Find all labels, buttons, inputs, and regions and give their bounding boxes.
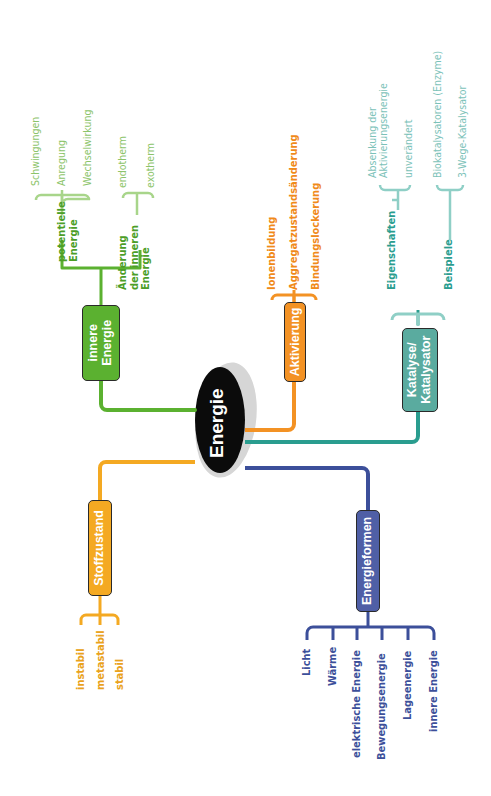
node-innere-energie-line2: Energie [100,320,114,366]
absenkung-line2: Aktivierungsenergie [377,83,389,178]
node-potentielle-energie: potentielleEnergie [56,201,79,262]
leaf-absenkung-aktivierungsenergie: Absenkung derAktivierungsenergie [367,83,389,178]
node-innere-energie[interactable]: innereEnergie [82,305,120,381]
node-katalyse-line1: Katalyse/ [405,343,419,398]
leaf-anregung: Anregung [56,140,67,186]
leaf-lageenergie: Lageenergie [402,651,414,720]
leaf-innere-energie: innere Energie [428,650,440,732]
leaf-ionenbildung: Ionenbildung [266,217,278,290]
node-energieformen-label: Energieformen [361,517,375,605]
leaf-wechselwirkung: Wechselwirkung [82,110,93,186]
leaf-bindungslockerung: Bindungslockerung [310,183,322,290]
mindmap-canvas: Energie innereEnergie potentielleEnergie… [0,0,491,796]
node-stoffzustand[interactable]: Stoffzustand [88,500,112,596]
node-aenderung-innere-energie: Änderungder innerenEnergie [117,225,152,290]
leaf-instabil: instabil [75,648,87,690]
node-katalyse[interactable]: Katalyse/Katalysator [402,328,438,412]
node-aktivierung[interactable]: Aktivierung [284,302,306,382]
node-energieformen[interactable]: Energieformen [356,510,380,612]
leaf-endotherm: endotherm [117,136,128,188]
leaf-exotherm: exotherm [145,143,156,188]
aenderung-line3: Energie [139,247,152,290]
leaf-3-wege-katalysator: 3-Wege-Katalysator [457,86,468,178]
leaf-elektrische-energie: elektrische Energie [351,650,363,758]
leaf-bewegungsenergie: Bewegungsenergie [376,653,388,760]
node-eigenschaften: Eigenschaften [386,211,398,290]
node-aktivierung-label: Aktivierung [288,308,302,377]
leaf-aggregatzustandsaenderung: Aggregatzustandsänderung [288,134,300,290]
leaf-biokatalysatoren: Biokatalysatoren (Enzyme) [432,51,443,178]
node-innere-energie-line1: innere [86,324,100,362]
center-node-label: Energie [207,388,227,458]
potentielle-line2: Energie [67,219,80,262]
leaf-schwingungen: Schwingungen [30,117,41,186]
node-beispiele: Beispiele [443,239,455,290]
node-stoffzustand-label: Stoffzustand [93,510,107,586]
leaf-stabil: stabil [114,659,126,690]
node-katalyse-line2: Katalysator [419,336,433,404]
leaf-unveraendert: unverändert [403,120,414,178]
leaf-metastabil: metastabil [95,630,107,690]
leaf-licht: Licht [301,649,313,676]
leaf-waerme: Wärme [327,647,339,686]
